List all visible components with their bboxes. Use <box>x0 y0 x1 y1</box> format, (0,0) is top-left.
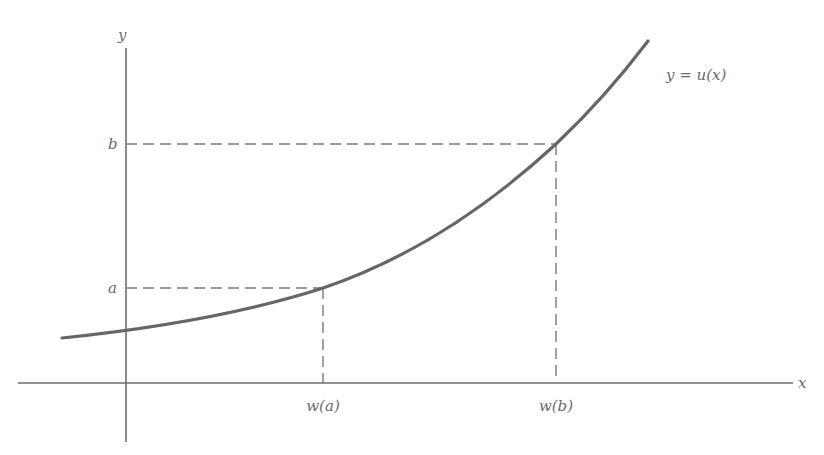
y-tick-b: b <box>108 135 118 153</box>
x-tick-wa: w(a) <box>306 397 340 415</box>
x-tick-wb: w(b) <box>539 397 573 415</box>
y-axis-label: y <box>117 26 127 44</box>
utility-function-diagram: y x y = u(x) a b w(a) w(b) <box>0 0 824 455</box>
x-axis-label: x <box>798 374 807 392</box>
y-tick-a: a <box>108 279 117 297</box>
curve-label: y = u(x) <box>665 66 727 84</box>
utility-curve <box>62 41 648 338</box>
